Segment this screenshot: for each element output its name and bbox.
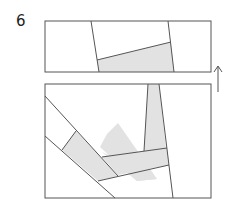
bottom-panel	[45, 84, 211, 198]
top-panel	[45, 21, 211, 72]
folding-diagram	[0, 0, 236, 210]
up-arrow-icon	[214, 66, 222, 92]
